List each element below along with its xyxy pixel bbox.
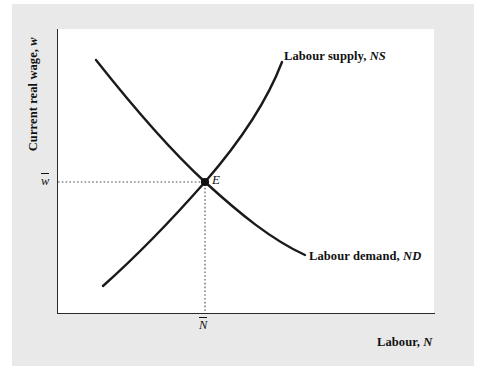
labour-supply-label: Labour supply, NS	[284, 50, 386, 63]
y-axis-label-variable: w	[26, 37, 40, 45]
labour-supply-label-variable: NS	[370, 49, 386, 63]
labour-demand-curve	[96, 60, 305, 255]
labour-demand-label-variable: ND	[403, 249, 421, 263]
labour-supply-curve	[103, 62, 282, 286]
labour-supply-label-text: Labour supply,	[284, 49, 370, 63]
x-axis-tick-label-equilibrium-employment: N	[199, 318, 207, 332]
labour-market-figure: Current real wage, w Labour, N Labour su…	[0, 0, 482, 372]
y-axis-label: Current real wage, w	[27, 19, 40, 169]
y-axis-tick-label-equilibrium-wage: w	[41, 174, 49, 188]
y-tick-variable: w	[41, 174, 49, 188]
x-axis-label-text: Labour,	[377, 335, 423, 349]
equilibrium-point	[201, 178, 209, 186]
equilibrium-label: E	[212, 173, 220, 186]
x-axis-label: Labour, N	[377, 336, 432, 349]
plot-graphics	[0, 0, 482, 372]
labour-demand-label-text: Labour demand,	[309, 249, 403, 263]
y-axis-label-text: Current real wage,	[26, 46, 40, 152]
x-axis-label-variable: N	[423, 335, 432, 349]
x-tick-variable: N	[199, 318, 207, 332]
labour-demand-label: Labour demand, ND	[309, 250, 421, 263]
